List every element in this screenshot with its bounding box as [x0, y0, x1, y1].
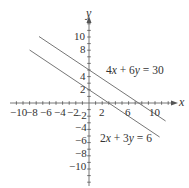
y-tick-label: −10 [69, 161, 86, 172]
x-tick-label: 10 [149, 107, 160, 118]
x-tick-label: −4 [54, 107, 66, 118]
x-tick-label: 6 [125, 107, 131, 118]
x-tick-label: −6 [40, 107, 52, 118]
y-tick-label: 10 [74, 31, 85, 42]
x-axis [10, 101, 174, 105]
y-tick-label: 8 [80, 44, 86, 55]
x-axis-arrow-icon [171, 101, 178, 106]
x-tick-label: −10 [10, 107, 27, 118]
y-axis-label: y [86, 7, 91, 19]
x-tick-label: −8 [26, 107, 38, 118]
y-tick-label: −4 [75, 122, 87, 133]
y-tick-label: 4 [80, 71, 86, 82]
graph-canvas [0, 0, 189, 188]
y-tick-label: −6 [75, 135, 87, 146]
y-tick-label: −8 [75, 148, 87, 159]
y-tick-label: 2 [80, 84, 86, 95]
equation-label-2: 2x + 3y = 6 [100, 133, 152, 145]
y-tick-label: −2 [75, 110, 87, 121]
x-axis-label: x [179, 96, 184, 108]
x-tick-label: 2 [99, 107, 105, 118]
equation-label-1: 4x + 6y = 30 [106, 65, 164, 77]
y-axis [87, 21, 91, 186]
